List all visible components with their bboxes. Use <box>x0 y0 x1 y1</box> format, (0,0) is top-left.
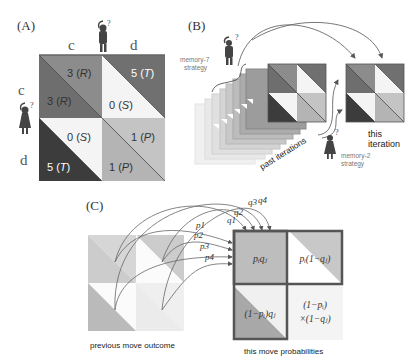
col-header-d: d <box>130 37 138 53</box>
this-move-probabilities-grid: pᵢqⱼ pᵢ(1−qⱼ) (1−pᵢ)qⱼ (1−pᵢ) ×(1−qⱼ) <box>233 230 343 340</box>
this-iteration-grid <box>346 64 404 122</box>
p2-label: p2 <box>193 230 204 240</box>
this-move-caption: this move probabilities <box>244 347 323 356</box>
col-header-c: c <box>68 37 75 53</box>
figure-root: (A) c d c d ? ? <box>0 0 416 364</box>
cell-dc-upper: 0 (S) <box>67 131 91 143</box>
cell-dc-lower: 5 (T) <box>47 161 70 173</box>
cell-1-p-1-q-line1: (1−pᵢ) <box>303 300 327 311</box>
male-player-icon: ? <box>225 33 240 65</box>
p1-label: p1 <box>195 220 205 230</box>
cell-dd-upper: 1 (P) <box>131 131 155 143</box>
svg-text:?: ? <box>30 101 34 110</box>
svg-text:?: ? <box>235 33 239 42</box>
panel-a: (A) c d c d ? ? <box>17 18 165 181</box>
q2-label: q2 <box>234 207 244 217</box>
latest-past-grid <box>268 64 326 122</box>
payoff-matrix: 3 (R) 3 (R) 5 (T) 0 (S) 0 (S) 5 (T) 1 (P… <box>39 55 165 181</box>
this-iteration-label-2: iteration <box>368 139 400 149</box>
previous-outcome-grid <box>88 235 184 331</box>
this-iteration-label: this <box>368 129 383 139</box>
panel-b: (B) ? memory-7 strategy <box>180 18 404 172</box>
cell-p-1-q: pᵢ(1−qⱼ) <box>298 254 330 265</box>
panel-a-label: (A) <box>17 18 35 33</box>
q4-label: q4 <box>258 195 268 205</box>
cell-cc-lower: 3 (R) <box>47 95 71 107</box>
cell-cd-upper: 5 (T) <box>131 67 154 79</box>
p4-label: p4 <box>204 252 215 262</box>
cell-dd-lower: 1 (P) <box>109 161 133 173</box>
panel-b-label: (B) <box>188 18 205 33</box>
memory2-label-2: strategy <box>341 160 365 168</box>
memory2-label: memory-2 <box>341 152 371 160</box>
cell-1-p-1-q-line2: ×(1−qⱼ) <box>299 314 330 325</box>
panel-c-label: (C) <box>86 198 103 213</box>
cell-cc-upper: 3 (R) <box>67 67 91 79</box>
svg-text:?: ? <box>107 19 111 28</box>
female-player-icon: ? <box>19 101 34 134</box>
female-player-icon: ? <box>324 128 339 159</box>
svg-text:?: ? <box>335 128 339 137</box>
male-player-icon: ? <box>99 19 112 52</box>
row-header-c: c <box>18 82 25 98</box>
cell-pq: pᵢqⱼ <box>252 253 268 264</box>
q3-label: q3 <box>248 197 258 207</box>
previous-outcome-caption: previous move outcome <box>90 341 175 350</box>
cell-1-p-q: (1−pᵢ)qⱼ <box>244 309 275 320</box>
cell-cd-lower: 0 (S) <box>109 99 133 111</box>
memory7-label-2: strategy <box>184 64 208 72</box>
memory7-label: memory-7 <box>180 56 210 64</box>
row-header-d: d <box>20 152 28 168</box>
panel-c: (C) previous move outcome p1 p2 <box>86 195 343 356</box>
p3-label: p3 <box>199 241 210 251</box>
